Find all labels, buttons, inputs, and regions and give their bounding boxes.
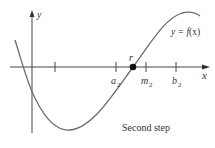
svg-text:2: 2 <box>117 81 121 89</box>
root-label: r <box>129 52 133 63</box>
svg-text:a: a <box>111 75 116 86</box>
diagram-caption: Second step <box>122 122 170 133</box>
svg-text:2: 2 <box>149 81 153 89</box>
function-label: y = f(x) <box>170 27 200 38</box>
root-point <box>130 64 137 71</box>
x-axis-label: x <box>201 69 207 81</box>
y-axis-label: y <box>36 9 42 20</box>
svg-text:2: 2 <box>178 81 182 89</box>
svg-text:m: m <box>141 75 148 86</box>
y-axis-arrow-icon <box>30 10 35 17</box>
tick-label-a2: a 2 <box>111 75 121 89</box>
svg-text:b: b <box>172 75 177 86</box>
tick-label-m2: m 2 <box>141 75 153 89</box>
bisection-diagram: y x r a 2 m 2 b 2 y = f(x) Second step <box>0 0 215 148</box>
tick-label-b2: b 2 <box>172 75 182 89</box>
